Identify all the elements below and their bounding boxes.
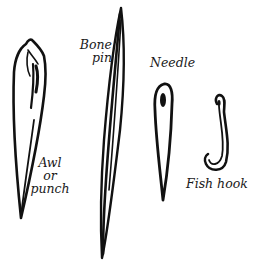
awl-label: Awl or punch <box>30 156 70 195</box>
bone-pin-label-line-2: pin <box>72 51 112 64</box>
tools-drawing <box>0 0 257 265</box>
needle-label-line-1: Needle <box>150 56 195 69</box>
fish-hook-drawing <box>205 95 228 170</box>
needle-drawing <box>155 84 172 200</box>
awl-label-line-3: punch <box>30 182 70 195</box>
fish-hook-label-line-1: Fish hook <box>186 177 248 190</box>
fish-hook-label: Fish hook <box>186 177 248 190</box>
bone-tools-figure: Awl or punch Bone pin Needle Fish hook <box>0 0 257 265</box>
bone-pin-label: Bone pin <box>72 38 112 64</box>
needle-label: Needle <box>150 56 195 69</box>
